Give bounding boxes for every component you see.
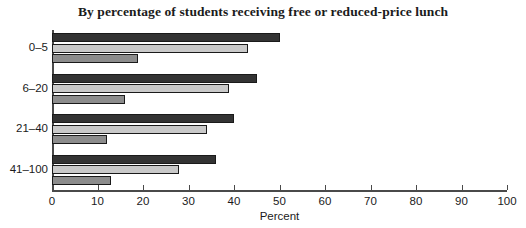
x-axis-title: Percent [52, 210, 507, 222]
bar [52, 125, 207, 134]
bar-chart: By percentage of students receiving free… [0, 0, 526, 228]
x-tick [416, 185, 417, 190]
bar [52, 135, 107, 144]
y-axis-label: 0–5 [29, 41, 48, 53]
x-tick-label: 40 [228, 195, 241, 207]
x-tick [234, 185, 235, 190]
y-axis-label: 21–40 [16, 122, 48, 134]
bar-group [52, 155, 507, 185]
chart-title: By percentage of students receiving free… [0, 4, 526, 20]
bar [52, 176, 111, 185]
bar [52, 74, 257, 83]
x-tick-label: 0 [49, 195, 55, 207]
bar [52, 165, 179, 174]
x-tick [52, 185, 53, 190]
x-tick [507, 185, 508, 190]
y-axis-label: 41–100 [10, 163, 48, 175]
x-tick [371, 185, 372, 190]
bar [52, 44, 248, 53]
x-tick-label: 60 [319, 195, 332, 207]
bar [52, 95, 125, 104]
plot-area [52, 30, 507, 192]
x-tick-label: 20 [137, 195, 150, 207]
bar [52, 54, 138, 63]
bar-group [52, 114, 507, 144]
bar [52, 155, 216, 164]
x-tick-label: 10 [91, 195, 104, 207]
x-tick-label: 100 [497, 195, 516, 207]
x-tick [189, 185, 190, 190]
y-axis-labels: 0–56–2021–4041–100 [0, 30, 48, 192]
bar [52, 33, 280, 42]
x-tick [462, 185, 463, 190]
x-axis-line [52, 190, 507, 192]
x-tick-label: 80 [410, 195, 423, 207]
x-tick-label: 30 [182, 195, 195, 207]
bar-group [52, 74, 507, 104]
x-tick-label: 90 [455, 195, 468, 207]
x-tick [143, 185, 144, 190]
y-axis-label: 6–20 [22, 82, 48, 94]
x-tick-label: 50 [273, 195, 286, 207]
x-tick-label: 70 [364, 195, 377, 207]
bar-group [52, 33, 507, 63]
x-tick [98, 185, 99, 190]
bar [52, 84, 229, 93]
x-tick [280, 185, 281, 190]
bar [52, 114, 234, 123]
x-tick [325, 185, 326, 190]
